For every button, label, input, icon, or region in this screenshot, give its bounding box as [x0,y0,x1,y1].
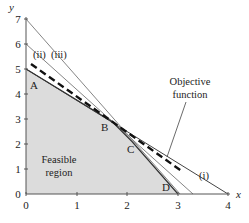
line-label-ii: (ii) [33,49,46,61]
point-label-b: B [101,121,108,133]
y-tick-label: 2 [15,138,21,150]
feasible-region-label: region [46,167,74,178]
y-tick-label: 7 [15,13,21,25]
x-tick-label: 2 [124,199,130,211]
y-tick-label: 0 [15,188,21,200]
x-tick-label: 0 [23,199,29,211]
y-tick-label: 5 [15,63,21,75]
x-tick-label: 4 [225,199,231,211]
x-tick-label: 3 [175,199,181,211]
y-axis-label: y [8,1,14,13]
x-tick-label: 1 [74,199,80,211]
line-label-i: (i) [199,170,209,182]
objective-function-label: Objective [170,76,211,87]
objective-leader-line [167,102,186,157]
y-tick-label: 6 [15,38,21,50]
y-tick-label: 1 [15,163,21,175]
y-tick-label: 4 [15,88,21,100]
feasible-region-label: Feasible [42,154,77,165]
linear-programming-diagram: 0 1 2 3 4 0 1 2 3 4 5 6 7 y x (ii) (iii)… [0,0,249,223]
y-tick-label: 3 [15,113,21,125]
point-label-c: C [127,143,134,155]
point-label-a: A [30,79,38,91]
x-axis-label: x [235,188,241,200]
objective-function-label: function [173,89,209,100]
line-label-iii: (iii) [51,49,67,61]
point-label-d: D [162,181,170,193]
